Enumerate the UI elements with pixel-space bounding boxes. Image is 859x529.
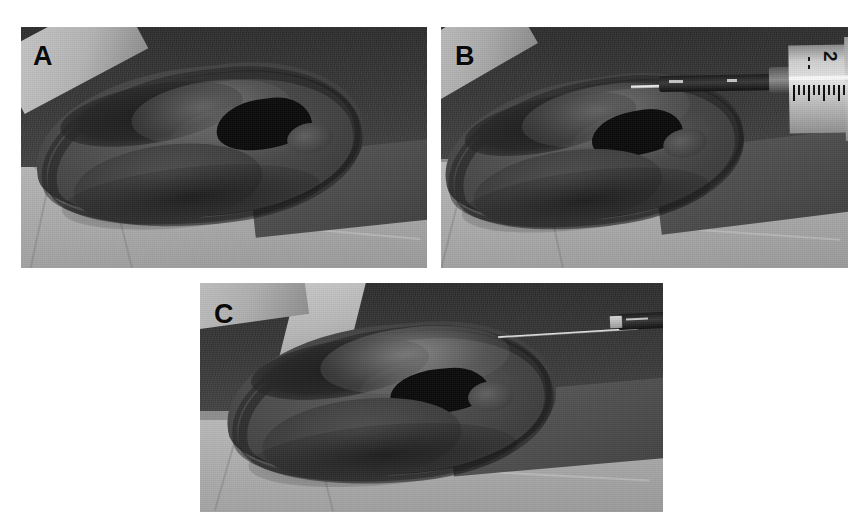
syringe-graduation	[833, 85, 835, 95]
syringe-graduation	[823, 85, 825, 101]
syringe-graduation	[808, 65, 810, 69]
syringe-graduation	[838, 85, 840, 101]
figure-canvas: A	[0, 0, 859, 529]
panel-letter-b: B	[455, 43, 475, 70]
syringe-graduation	[813, 85, 815, 95]
syringe-graduation	[818, 85, 820, 95]
syringe-graduation	[803, 85, 805, 95]
syringe-graduation	[828, 85, 830, 95]
syringe-graduation	[808, 85, 810, 101]
needle-hub-collar	[610, 316, 623, 329]
syringe-graduation	[808, 57, 810, 61]
panel-c: C	[200, 283, 663, 512]
needle-hub-highlight	[727, 79, 737, 82]
panel-letter-a: A	[33, 43, 53, 70]
panel-letter-c: C	[214, 301, 234, 328]
needle-hub	[659, 74, 779, 92]
syringe-graduation	[793, 85, 795, 101]
panel-b: 2 B	[441, 27, 848, 268]
syringe-graduation	[798, 85, 800, 95]
syringe-graduation	[843, 85, 845, 95]
panel-a: A	[21, 27, 427, 268]
needle-hub	[618, 312, 663, 330]
needle-hub-highlight	[669, 80, 683, 83]
syringe-volume-label: 2	[823, 51, 841, 69]
